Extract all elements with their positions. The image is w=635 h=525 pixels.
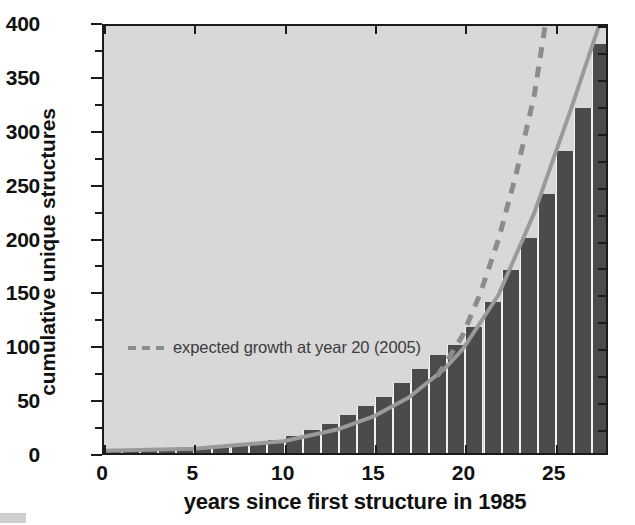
right-axis-tick	[598, 53, 606, 55]
y-tick-label: 0	[29, 443, 40, 467]
right-axis-tick	[598, 215, 606, 217]
y-tick-mark-major	[91, 77, 102, 79]
right-axis-tick	[598, 376, 606, 378]
right-axis-tick	[598, 107, 606, 109]
y-tick-mark-major	[91, 131, 102, 133]
bottom-axis-tick	[285, 445, 287, 453]
y-tick-label: 150	[6, 281, 40, 305]
bottom-axis-tick	[556, 445, 558, 453]
x-tick-label: 20	[452, 461, 475, 485]
right-axis-tick	[598, 80, 606, 82]
y-tick-mark-minor	[95, 319, 102, 321]
top-axis-tick	[556, 26, 558, 34]
expected-growth-curve	[437, 26, 545, 376]
x-tick-label: 5	[187, 461, 199, 485]
y-tick-mark-minor	[95, 104, 102, 106]
y-tick-mark-minor	[95, 427, 102, 429]
y-tick-mark-minor	[95, 373, 102, 375]
top-axis-tick	[465, 26, 467, 34]
y-tick-mark-minor	[95, 265, 102, 267]
page-crop-artifact	[0, 513, 26, 523]
bottom-axis-tick	[465, 445, 467, 453]
plot-area: expected growth at year 20 (2005)	[102, 24, 608, 455]
x-axis-title: years since first structure in 1985	[102, 489, 608, 515]
x-tick-label: 0	[96, 461, 108, 485]
right-axis-tick	[598, 295, 606, 297]
figure-canvas: cumulative unique structures 05010015020…	[0, 0, 635, 525]
top-axis-tick	[194, 26, 196, 34]
y-tick-mark-major	[91, 185, 102, 187]
right-axis-tick	[598, 134, 606, 136]
y-tick-mark-minor	[95, 158, 102, 160]
top-axis-tick	[285, 26, 287, 34]
y-tick-mark-minor	[95, 50, 102, 52]
y-tick-mark-minor	[95, 212, 102, 214]
top-axis-tick	[104, 26, 106, 34]
right-axis-tick	[598, 26, 606, 28]
y-tick-label: 200	[6, 228, 40, 252]
right-axis-tick	[598, 403, 606, 405]
legend-label-expected-growth: expected growth at year 20 (2005)	[173, 338, 421, 357]
right-axis-tick	[598, 242, 606, 244]
y-tick-label: 300	[6, 120, 40, 144]
right-axis-tick	[598, 322, 606, 324]
right-axis-tick	[598, 430, 606, 432]
y-tick-mark-major	[91, 454, 102, 456]
right-axis-tick	[598, 349, 606, 351]
y-tick-mark-major	[91, 23, 102, 25]
right-axis-tick	[598, 188, 606, 190]
top-axis-tick	[375, 26, 377, 34]
bottom-axis-tick	[375, 445, 377, 453]
y-tick-mark-major	[91, 292, 102, 294]
y-tick-label: 250	[6, 174, 40, 198]
y-tick-mark-major	[91, 346, 102, 348]
y-axis: cumulative unique structures 05010015020…	[0, 0, 102, 525]
x-tick-label: 25	[542, 461, 565, 485]
fitted-growth-curve	[104, 26, 599, 451]
y-tick-label: 350	[6, 66, 40, 90]
y-tick-mark-major	[91, 239, 102, 241]
right-axis-tick	[598, 161, 606, 163]
chart-legend: expected growth at year 20 (2005)	[128, 338, 421, 357]
right-axis-tick	[598, 268, 606, 270]
bottom-axis-tick	[194, 445, 196, 453]
y-tick-label: 100	[6, 335, 40, 359]
x-tick-label: 10	[271, 461, 294, 485]
bottom-axis-tick	[104, 445, 106, 453]
x-tick-label: 15	[361, 461, 384, 485]
y-tick-label: 400	[6, 12, 40, 36]
y-tick-mark-major	[91, 400, 102, 402]
y-tick-label: 50	[17, 389, 40, 413]
trend-lines-layer	[104, 26, 606, 453]
dashed-line-swatch-icon	[128, 346, 164, 350]
